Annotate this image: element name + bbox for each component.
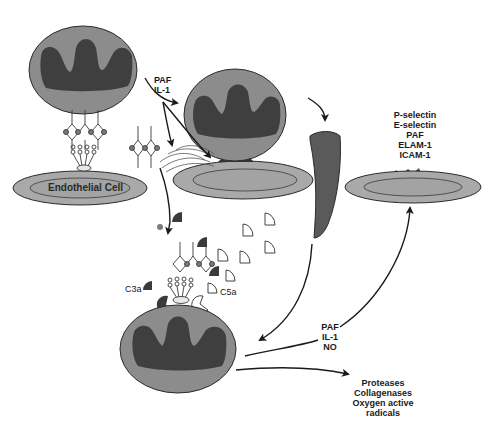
- product-proteases: Proteases: [343, 378, 423, 388]
- activation-markers-label: P-selectin E-selectin PAF ELAM-1 ICAM-1: [380, 110, 450, 160]
- adhesion-molecules-3: [168, 242, 215, 304]
- endothelial-cell-2: [173, 161, 313, 199]
- adhesion-molecules-1: [64, 110, 107, 171]
- small-ligand-dot: [157, 224, 163, 230]
- first-signals-label: PAF IL-1: [154, 75, 171, 95]
- leukocyte-activated: [120, 305, 236, 393]
- product-radicals: radicals: [343, 408, 423, 418]
- adhesion-molecules-free: [130, 126, 160, 168]
- feedback-signals-label: PAF IL-1 NO: [318, 322, 342, 352]
- product-oxygen-active: Oxygen active: [343, 398, 423, 408]
- marker-e-selectin: E-selectin: [380, 120, 450, 130]
- marker-p-selectin: P-selectin: [380, 110, 450, 120]
- c3a-fragments: [143, 212, 219, 290]
- products-label: Proteases Collagenases Oxygen active rad…: [343, 378, 423, 418]
- leukocyte-transmigrating: [310, 132, 341, 239]
- marker-icam1: ICAM-1: [380, 150, 450, 160]
- marker-paf: PAF: [380, 130, 450, 140]
- feedback-il1: IL-1: [318, 332, 342, 342]
- leukocyte-adhering: [184, 69, 286, 161]
- c5a-label: C5a: [220, 287, 237, 297]
- signal-paf: PAF: [154, 75, 171, 85]
- leukocyte-endothelial-diagram: Endothelial Cell PAF IL-1 P-selectin E-s…: [0, 0, 499, 425]
- signal-il1: IL-1: [154, 85, 171, 95]
- diagram-canvas: [0, 0, 499, 425]
- feedback-no: NO: [318, 342, 342, 352]
- feedback-paf: PAF: [318, 322, 342, 332]
- leukocyte-rolling: [29, 26, 137, 114]
- product-collagenases: Collagenases: [343, 388, 423, 398]
- endothelial-cell-label: Endothelial Cell: [48, 182, 123, 193]
- endothelial-cell-3: [345, 168, 481, 203]
- marker-elam1: ELAM-1: [380, 140, 450, 150]
- c3a-label: C3a: [125, 284, 142, 294]
- c5a-fragments: [208, 213, 275, 293]
